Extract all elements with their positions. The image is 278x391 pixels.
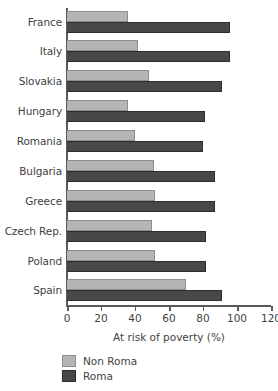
bar-non-roma [67, 160, 154, 171]
x-axis-tick [169, 306, 171, 311]
y-axis-category-label: Bulgaria [0, 158, 62, 183]
bar-non-roma [67, 40, 138, 51]
x-axis-tick-label: 120 [261, 312, 278, 324]
bar-group [67, 9, 271, 34]
bar-roma [67, 51, 230, 62]
y-axis-category-label: France [0, 9, 62, 34]
bar-group [67, 248, 271, 273]
x-axis-tick-label: 40 [128, 312, 141, 324]
x-axis-title: At risk of poverty (%) [67, 331, 271, 343]
y-axis-category-label: Czech Rep. [0, 218, 62, 243]
bar-roma [67, 231, 206, 242]
bar-roma [67, 22, 230, 33]
chart-legend: Non RomaRoma [62, 355, 137, 382]
bar-group [67, 188, 271, 213]
bar-non-roma [67, 100, 128, 111]
x-axis-tick [237, 306, 239, 311]
x-axis-ticks [67, 306, 271, 311]
bar-roma [67, 81, 222, 92]
y-axis-category-label: Romania [0, 129, 62, 154]
x-axis-tick-label: 60 [162, 312, 175, 324]
bar-roma [67, 171, 215, 182]
bar-roma [67, 141, 203, 152]
bar-group [67, 99, 271, 124]
bar-non-roma [67, 279, 186, 290]
bar-non-roma [67, 130, 135, 141]
bar-roma [67, 290, 222, 301]
x-axis-tick-label: 100 [227, 312, 247, 324]
x-axis-tick [271, 306, 273, 311]
legend-item: Roma [62, 370, 137, 382]
x-axis-tick-label: 80 [196, 312, 209, 324]
y-axis-category-label: Greece [0, 188, 62, 213]
y-axis-category-label: Slovakia [0, 69, 62, 94]
x-axis-tick-label: 0 [64, 312, 71, 324]
x-axis-tick [67, 306, 69, 311]
bar-rows [67, 8, 271, 305]
bar-roma [67, 201, 215, 212]
y-axis-category-label: Hungary [0, 99, 62, 124]
poverty-risk-bar-chart: FranceItalySlovakiaHungaryRomaniaBulgari… [0, 0, 278, 391]
legend-label: Roma [83, 370, 113, 382]
y-axis-category-label: Poland [0, 248, 62, 273]
bar-group [67, 39, 271, 64]
y-axis-category-label: Spain [0, 278, 62, 303]
bar-non-roma [67, 250, 155, 261]
x-axis-tick-labels: 020406080100120 [67, 312, 271, 328]
x-axis-tick-label: 20 [94, 312, 107, 324]
bar-roma [67, 261, 206, 272]
x-axis-tick [203, 306, 205, 311]
bar-group [67, 158, 271, 183]
legend-swatch-non-roma [62, 355, 76, 367]
bar-group [67, 69, 271, 94]
x-axis-tick [135, 306, 137, 311]
legend-label: Non Roma [83, 355, 137, 367]
bar-group [67, 278, 271, 303]
bar-roma [67, 111, 205, 122]
bar-non-roma [67, 11, 128, 22]
legend-swatch-roma [62, 370, 76, 382]
bar-non-roma [67, 190, 155, 201]
bar-group [67, 218, 271, 243]
legend-item: Non Roma [62, 355, 137, 367]
y-axis-category-label: Italy [0, 39, 62, 64]
plot-area [67, 8, 271, 305]
bar-group [67, 129, 271, 154]
x-axis-tick [101, 306, 103, 311]
bar-non-roma [67, 220, 152, 231]
bar-non-roma [67, 70, 149, 81]
y-axis-category-labels: FranceItalySlovakiaHungaryRomaniaBulgari… [0, 8, 62, 305]
